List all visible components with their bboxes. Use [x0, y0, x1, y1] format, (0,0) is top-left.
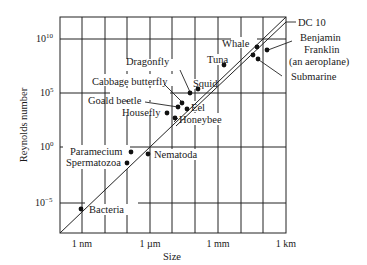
point-labels: Paramecium Spermatozoa Nematoda Bacteria… — [66, 17, 350, 215]
y-tick-1e-5: 10−5 — [35, 196, 53, 208]
label-franklin: Franklin — [304, 44, 340, 55]
label-squid: Squid — [193, 78, 218, 89]
y-tick-labels: 1010 105 100 10−5 — [35, 32, 54, 208]
point-whale — [255, 45, 260, 50]
label-dc10: DC 10 — [298, 17, 326, 28]
point-cabbage-butterfly — [180, 101, 185, 106]
label-benjamin: Benjamin — [300, 32, 342, 43]
main-diagonal-line — [60, 17, 286, 233]
label-tuna: Tuna — [207, 54, 229, 65]
label-honeybee: Honeybee — [179, 114, 222, 125]
point-housefly — [165, 111, 170, 116]
point-dc10 — [251, 53, 256, 58]
x-tick-1km: 1 km — [276, 238, 297, 249]
reynolds-chart: Paramecium Spermatozoa Nematoda Bacteria… — [0, 0, 367, 265]
x-axis-title: Size — [163, 251, 181, 262]
y-tick-1e0: 100 — [40, 140, 54, 152]
label-dragonfly: Dragonfly — [126, 56, 170, 67]
x-tick-labels: 1 nm 1 µm 1 mm 1 km — [72, 238, 297, 249]
point-honeybee — [173, 116, 178, 121]
point-paramecium — [129, 150, 134, 155]
x-tick-1mm: 1 mm — [206, 238, 229, 249]
point-eel — [185, 107, 190, 112]
reference-lines — [60, 17, 286, 233]
y-axis-title: Reynolds number — [18, 87, 29, 162]
label-submarine: Submarine — [291, 71, 337, 82]
point-submarine — [256, 57, 261, 62]
label-paramecium: Paramecium — [70, 146, 122, 157]
label-housefly: Housefly — [122, 107, 161, 118]
x-tick-1um: 1 µm — [139, 238, 160, 249]
point-nematoda — [146, 152, 151, 157]
label-goald-beetle: Goald beetle — [88, 95, 142, 106]
label-aeroplane: (an aeroplane) — [289, 56, 350, 68]
label-nematoda: Nematoda — [154, 149, 197, 160]
label-spermatozoa: Spermatozoa — [66, 157, 121, 168]
label-cabbage-butterfly: Cabbage butterfly — [92, 76, 168, 87]
x-tick-1nm: 1 nm — [72, 238, 93, 249]
point-spermatozoa — [125, 161, 130, 166]
point-goald-beetle — [176, 105, 181, 110]
point-bacteria — [79, 207, 84, 212]
point-dragonfly — [188, 91, 193, 96]
label-whale: Whale — [222, 38, 250, 49]
leader-lines — [145, 22, 296, 122]
y-tick-1e10: 1010 — [36, 32, 54, 44]
point-benjamin-franklin — [265, 48, 270, 53]
label-eel: Eel — [191, 102, 205, 113]
label-bacteria: Bacteria — [89, 204, 124, 215]
y-tick-1e5: 105 — [40, 86, 54, 98]
